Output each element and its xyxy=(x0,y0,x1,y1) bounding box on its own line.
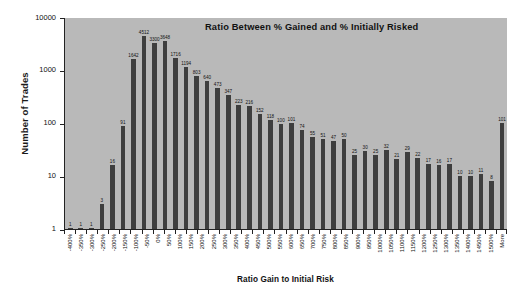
bar-cell: 3648 xyxy=(160,18,171,229)
bar-value-label: 223 xyxy=(235,99,243,104)
bar-value-label: 118 xyxy=(267,114,274,119)
x-tick-label: 100% xyxy=(177,234,183,249)
y-axis-title: Number of Trades xyxy=(19,44,30,184)
histogram-bar: 3 xyxy=(100,204,105,229)
bar-value-label: 74 xyxy=(299,124,304,129)
histogram-bar: 25 xyxy=(352,155,357,229)
x-label-cell: 1150% xyxy=(407,234,418,272)
x-tick-label: 1400% xyxy=(465,234,471,253)
x-tick-label: 500% xyxy=(266,234,272,249)
histogram-bar: 74 xyxy=(300,130,305,229)
bar-cell: 100 xyxy=(276,18,287,229)
x-tick-label: 1100% xyxy=(399,234,405,252)
x-label-cell: 1400% xyxy=(463,234,474,272)
bar-value-label: 21 xyxy=(394,153,399,158)
bar-cell: 3300 xyxy=(149,18,160,229)
bar-value-label: 1 xyxy=(90,222,93,227)
x-label-cell: 700% xyxy=(308,234,319,272)
bar-value-label: 216 xyxy=(245,100,253,105)
x-tick-label: 200% xyxy=(199,234,205,249)
x-label-cell: 100% xyxy=(175,234,186,272)
histogram-bar: 473 xyxy=(215,88,220,229)
bar-cell: 1 xyxy=(76,18,87,229)
histogram-bar: 3648 xyxy=(163,41,168,229)
histogram-figure: Number of Trades 10000 1000 100 10 1 Rat… xyxy=(0,0,517,296)
x-label-cell: 500% xyxy=(263,234,274,272)
histogram-bar: 25 xyxy=(373,155,378,229)
x-label-cell: 350% xyxy=(230,234,241,272)
bar-cell: 25 xyxy=(370,18,381,229)
x-tick-label: -300% xyxy=(89,234,95,251)
bar-cell: 101 xyxy=(497,18,508,229)
bar-value-label: 10 xyxy=(457,170,462,175)
bar-cell: 101 xyxy=(286,18,297,229)
x-label-cell: 300% xyxy=(219,234,230,272)
bar-cell: 223 xyxy=(234,18,245,229)
bar-cell: 473 xyxy=(212,18,223,229)
histogram-bar: 101 xyxy=(289,123,294,229)
x-tick-label: 600% xyxy=(288,234,294,249)
x-tick-label: -400% xyxy=(67,234,73,251)
x-tick-label: 800% xyxy=(332,234,338,249)
bar-cell: 8 xyxy=(486,18,497,229)
bar-value-label: 640 xyxy=(203,75,211,80)
x-label-cell: -100% xyxy=(130,234,141,272)
x-label-cell: -250% xyxy=(97,234,108,272)
x-tick-label: 850% xyxy=(343,234,349,249)
x-tick-label: -250% xyxy=(100,234,106,251)
bar-cell: 29 xyxy=(402,18,413,229)
bar-value-label: 25 xyxy=(352,149,357,154)
histogram-bar: 152 xyxy=(258,114,263,229)
bar-value-label: 152 xyxy=(256,108,264,113)
bar-value-label: 473 xyxy=(214,82,222,87)
histogram-bar: 1194 xyxy=(184,67,189,229)
x-label-cell: 1450% xyxy=(474,234,485,272)
bar-cell: 16 xyxy=(434,18,445,229)
bar-cell: 47 xyxy=(328,18,339,229)
x-tick-label: 750% xyxy=(321,234,327,249)
bar-cell: 10 xyxy=(455,18,466,229)
x-label-cell: 1250% xyxy=(430,234,441,272)
bar-value-label: 101 xyxy=(498,117,506,122)
y-tick-label-1: 1 xyxy=(14,225,56,233)
x-label-cell: 800% xyxy=(330,234,341,272)
x-label-cell: 0% xyxy=(153,234,164,272)
x-label-cell: 1050% xyxy=(385,234,396,272)
histogram-bar: 16 xyxy=(437,165,442,229)
histogram-bar: 11 xyxy=(479,174,484,229)
histogram-bar: 1642 xyxy=(131,59,136,229)
x-tick-label: 1450% xyxy=(476,234,482,253)
x-label-cell: 1300% xyxy=(441,234,452,272)
bar-value-label: 17 xyxy=(426,158,431,163)
histogram-bar: 10 xyxy=(458,176,463,229)
histogram-bar: 640 xyxy=(205,81,210,229)
bar-value-label: 47 xyxy=(331,135,336,140)
bar-value-label: 17 xyxy=(447,158,452,163)
x-tick-label: -50% xyxy=(144,234,150,248)
bar-cell: 347 xyxy=(223,18,234,229)
x-label-cell: 50% xyxy=(164,234,175,272)
x-label-cell: 550% xyxy=(274,234,285,272)
bar-cell: 17 xyxy=(423,18,434,229)
x-tick-label: 1500% xyxy=(488,234,494,253)
bar-value-label: 30 xyxy=(363,145,368,150)
x-tick-label: 50% xyxy=(166,234,172,246)
x-tick-label: 1300% xyxy=(443,234,449,253)
x-label-cell: 850% xyxy=(341,234,352,272)
bar-cell: 3 xyxy=(97,18,108,229)
x-axis-title: Ratio Gain to Initial Risk xyxy=(64,275,507,284)
x-label-cell: 450% xyxy=(252,234,263,272)
histogram-bar: 22 xyxy=(415,158,420,229)
x-tick-label: 900% xyxy=(355,234,361,249)
x-tick-label: 1350% xyxy=(454,234,460,253)
x-tick-label: 0% xyxy=(155,234,161,243)
bar-cell: 21 xyxy=(391,18,402,229)
bar-series: 1113169116424512330036481716119480364047… xyxy=(65,18,507,229)
x-label-cell: 900% xyxy=(352,234,363,272)
x-tick-label: -150% xyxy=(122,234,128,251)
bar-value-label: 91 xyxy=(120,120,125,125)
bar-cell: 16 xyxy=(107,18,118,229)
bar-cell: 1642 xyxy=(128,18,139,229)
x-tick-label: 550% xyxy=(277,234,283,249)
bar-value-label: 101 xyxy=(288,117,296,122)
